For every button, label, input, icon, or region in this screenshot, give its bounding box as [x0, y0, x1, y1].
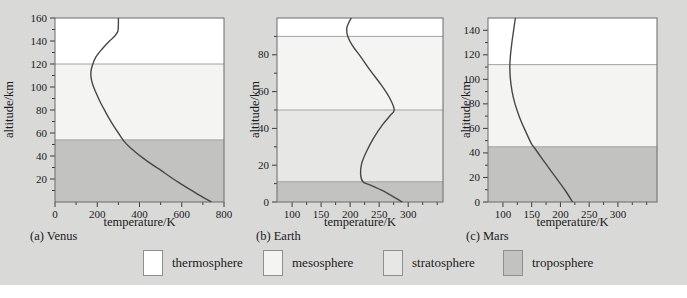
- mars-x-axis-label: temperature/K: [488, 215, 657, 230]
- troposphere-swatch: [503, 250, 523, 276]
- thermosphere-swatch: [143, 250, 163, 276]
- svg-text:140: 140: [31, 35, 48, 47]
- svg-text:0: 0: [475, 196, 481, 208]
- bottom-margin-strip: [0, 285, 687, 298]
- earth-y-axis-label: altitude/km: [247, 18, 263, 202]
- earth-x-axis-label: temperature/K: [277, 215, 443, 230]
- atmosphere-temperature-figure: 020040060080020406080100120140160 100150…: [0, 0, 687, 298]
- venus-y-axis-label: altitude/km: [1, 18, 17, 202]
- venus-x-axis-label: temperature/K: [55, 215, 224, 230]
- earth-caption: (b) Earth: [256, 229, 301, 244]
- svg-text:40: 40: [36, 150, 48, 162]
- venus-caption: (a) Venus: [30, 229, 77, 244]
- legend-item-mesosphere: mesosphere: [263, 250, 353, 276]
- svg-text:120: 120: [31, 58, 48, 70]
- legend-label-thermosphere: thermosphere: [172, 255, 243, 271]
- svg-text:100: 100: [31, 81, 48, 93]
- venus-chart: 020040060080020406080100120140160: [55, 18, 224, 202]
- legend-label-troposphere: troposphere: [532, 255, 593, 271]
- legend-label-mesosphere: mesosphere: [292, 255, 353, 271]
- legend-label-stratosphere: stratosphere: [412, 255, 475, 271]
- svg-text:0: 0: [264, 196, 270, 208]
- earth-chart: 100150200250300020406080: [277, 18, 443, 202]
- legend-item-troposphere: troposphere: [503, 250, 593, 276]
- layer-bands: [55, 18, 224, 202]
- legend-item-thermosphere: thermosphere: [143, 250, 243, 276]
- svg-text:60: 60: [36, 127, 48, 139]
- mars-caption: (c) Mars: [466, 229, 509, 244]
- mesosphere-swatch: [263, 250, 283, 276]
- mars-y-axis-label: altitude/km: [458, 18, 474, 202]
- svg-text:160: 160: [31, 12, 48, 24]
- svg-text:80: 80: [36, 104, 48, 116]
- svg-text:20: 20: [36, 173, 48, 185]
- legend-item-stratosphere: stratosphere: [383, 250, 475, 276]
- layer-bands: [488, 18, 657, 202]
- stratosphere-swatch: [383, 250, 403, 276]
- mars-chart: 100150200250300020406080100120140: [488, 18, 657, 202]
